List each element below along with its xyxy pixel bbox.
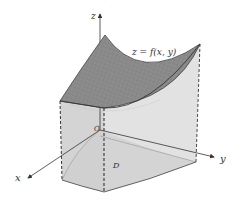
y-axis-label: y (219, 153, 226, 164)
z-axis-label: z (90, 11, 96, 21)
x-axis-label: x (15, 172, 21, 183)
surface-volume-figure: z x y z = f(x, y) O D (0, 0, 243, 202)
surface-equation-label: z = f(x, y) (131, 47, 177, 57)
origin-label: O (94, 125, 100, 133)
region-d-label: D (112, 161, 120, 170)
